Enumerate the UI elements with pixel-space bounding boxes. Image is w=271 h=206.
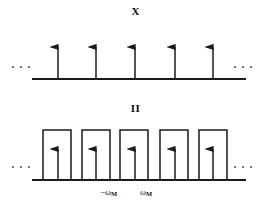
bottom-panel-group: [32, 130, 246, 180]
bottom-left-ellipsis: [12, 166, 30, 168]
envelope-rect-4: [160, 130, 188, 180]
pos-omega-subscript: M: [146, 190, 152, 197]
top-panel-group: [32, 47, 246, 79]
envelope-rect-1: [43, 130, 71, 180]
top-panel-title: X: [0, 6, 271, 17]
neg-omega-symbol: −ω: [100, 187, 111, 197]
envelope-rect-3: [120, 130, 148, 180]
top-left-ellipsis: [12, 66, 30, 68]
bottom-right-ellipsis: [234, 166, 252, 168]
neg-omega-subscript: M: [111, 190, 117, 197]
top-right-ellipsis: [234, 66, 252, 68]
axis-label-pos-omega-m: ωM: [140, 188, 152, 198]
axis-label-neg-omega-m: −ωM: [100, 188, 117, 198]
signal-spectrum-figure: X II: [0, 0, 271, 206]
bottom-panel-title: II: [0, 103, 271, 114]
